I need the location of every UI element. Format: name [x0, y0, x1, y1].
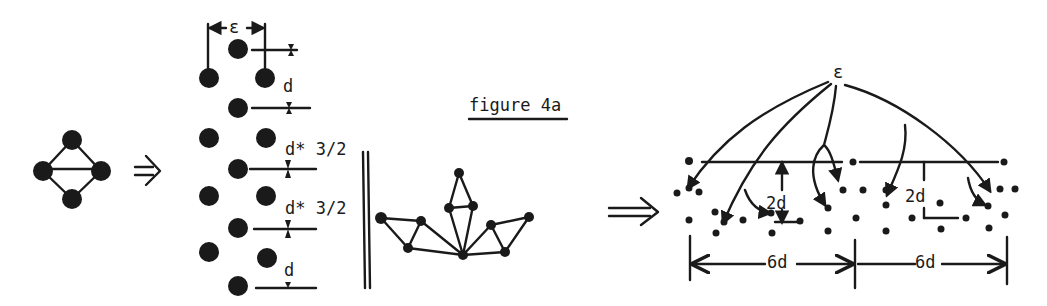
implies-arrow-icon: [135, 156, 160, 185]
width-6d-right: 6d: [915, 252, 935, 272]
atom: [91, 161, 111, 181]
epsilon-label-surface: ε: [833, 62, 843, 82]
atom: [62, 189, 82, 209]
d-label-bottom: d: [284, 260, 294, 280]
figure-title: figure 4a: [469, 95, 567, 119]
figure-title-text: figure 4a: [469, 95, 561, 115]
implies-arrow-icon: [609, 198, 658, 225]
d-three-halves-label-2: d* 3/2: [285, 198, 346, 218]
crown-structure: [363, 152, 534, 288]
spacing-2d-right: 2d: [905, 186, 925, 206]
figure-4a-diagram: ε d d* 3/2 d* 3/2 d figure: [0, 0, 1047, 306]
surface-lattice: ε 2d 2d: [674, 62, 1019, 288]
epsilon-label: ε: [229, 17, 239, 37]
d-label-top: d: [283, 76, 293, 96]
molecule-cluster: [33, 130, 111, 209]
atom-columns: ε d d* 3/2 d* 3/2 d: [199, 17, 346, 296]
d-three-halves-label-1: d* 3/2: [285, 139, 346, 159]
width-6d-left: 6d: [767, 252, 787, 272]
atom: [62, 130, 82, 150]
atom: [33, 161, 53, 181]
spacing-2d-left: 2d: [766, 193, 786, 213]
